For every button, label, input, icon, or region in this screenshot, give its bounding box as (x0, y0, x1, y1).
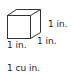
cube-top-face (8, 10, 41, 16)
width-label: 1 in. (7, 40, 27, 50)
depth-label: 1 in. (37, 36, 57, 46)
volume-label: 1 cu in. (7, 63, 40, 73)
cube-side-face (31, 10, 41, 39)
height-label: 1 in. (48, 19, 68, 29)
cube-front-face (8, 16, 31, 39)
